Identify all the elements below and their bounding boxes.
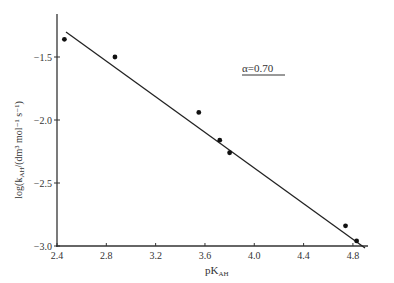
data-point (196, 110, 201, 115)
data-points (62, 37, 359, 243)
data-point (343, 223, 348, 228)
x-tick-label: 2.4 (51, 250, 64, 261)
y-ticks: −1.5−2.0−2.5−3.0 (34, 52, 60, 252)
y-tick-label: −1.5 (34, 52, 52, 63)
y-axis-label: log(kAH/(dm³ mol⁻¹ s⁻¹) (13, 101, 26, 198)
data-point (62, 37, 67, 42)
data-point (113, 55, 118, 60)
x-tick-label: 3.6 (199, 250, 212, 261)
y-tick-label: −2.0 (34, 115, 52, 126)
data-point (354, 239, 359, 244)
y-tick-label: −2.5 (34, 178, 52, 189)
chart: 2.42.83.23.64.04.44.8 −1.5−2.0−2.5−3.0 α… (0, 0, 394, 283)
fit-line (66, 32, 365, 248)
x-tick-label: 4.0 (248, 250, 261, 261)
x-tick-label: 2.8 (100, 250, 113, 261)
x-axis-label: pKAH (205, 264, 229, 278)
x-tick-label: 3.2 (149, 250, 162, 261)
x-tick-label: 4.4 (297, 250, 310, 261)
axes (56, 14, 368, 247)
data-point (227, 150, 232, 155)
x-tick-label: 4.8 (347, 250, 360, 261)
data-point (217, 138, 222, 143)
annotation-label: α=0.70 (242, 62, 274, 74)
y-tick-label: −3.0 (34, 241, 52, 252)
